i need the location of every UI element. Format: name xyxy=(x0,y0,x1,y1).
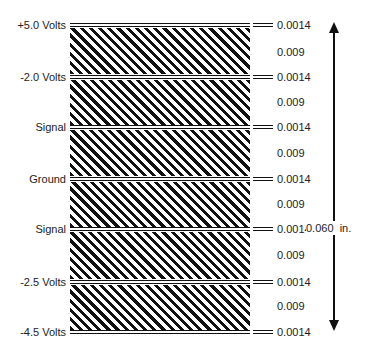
arrow-down-icon xyxy=(329,320,339,331)
copper-thickness: 0.0014 xyxy=(277,173,311,185)
dielectric-core-5 xyxy=(70,232,250,279)
dielectric-core-2 xyxy=(70,80,250,125)
total-thickness-value: 0.060 xyxy=(306,222,334,234)
layer-label: -2.0 Volts xyxy=(0,71,66,83)
copper-layer-2 xyxy=(70,75,250,79)
thickness-marker xyxy=(253,177,273,181)
thickness-marker xyxy=(253,75,273,79)
total-thickness-unit: in. xyxy=(340,222,352,234)
thickness-marker xyxy=(253,280,273,284)
dielectric-core-1 xyxy=(70,28,250,74)
copper-thickness: 0.0014 xyxy=(277,276,311,288)
layer-label: Signal xyxy=(0,223,66,235)
thickness-marker xyxy=(253,227,273,231)
copper-layer-3 xyxy=(70,125,250,129)
core-thickness: 0.009 xyxy=(277,249,305,261)
copper-layer-5 xyxy=(70,227,250,231)
copper-thickness: 0.0014 xyxy=(277,71,311,83)
total-thickness: 0.060 in. xyxy=(306,221,351,235)
thickness-marker xyxy=(253,330,273,334)
copper-thickness: 0.0014 xyxy=(277,326,311,338)
core-thickness: 0.009 xyxy=(277,300,305,312)
copper-layer-1 xyxy=(70,23,250,27)
layer-label: Ground xyxy=(0,173,66,185)
dielectric-core-3 xyxy=(70,130,250,176)
core-thickness: 0.009 xyxy=(277,96,305,108)
core-thickness: 0.009 xyxy=(277,46,305,58)
copper-thickness: 0.0014 xyxy=(277,19,311,31)
layer-label: -2.5 Volts xyxy=(0,276,66,288)
dielectric-core-4 xyxy=(70,182,250,227)
thickness-marker xyxy=(253,23,273,27)
dimension-line xyxy=(333,32,335,322)
copper-thickness: 0.0014 xyxy=(277,121,311,133)
layer-label: +5.0 Volts xyxy=(0,19,66,31)
copper-layer-7 xyxy=(70,330,250,334)
layer-label: Signal xyxy=(0,121,66,133)
core-thickness: 0.009 xyxy=(277,147,305,159)
layer-label: -4.5 Volts xyxy=(0,326,66,338)
copper-layer-4 xyxy=(70,177,250,181)
dielectric-core-6 xyxy=(70,285,250,330)
copper-layer-6 xyxy=(70,280,250,284)
core-thickness: 0.009 xyxy=(277,198,305,210)
thickness-marker xyxy=(253,125,273,129)
